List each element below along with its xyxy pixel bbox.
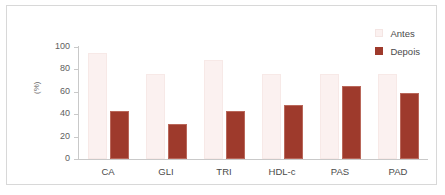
bar-group (253, 47, 311, 159)
bar-antes-ca (88, 53, 107, 159)
legend-item-depois[interactable]: Depois (375, 42, 420, 60)
bar-antes-tri (204, 60, 223, 159)
category-label-ca: CA (79, 166, 137, 177)
category-label-tri: TRI (195, 166, 253, 177)
y-axis-labels: 020406080100 (7, 6, 78, 186)
legend-swatch-icon (375, 47, 383, 55)
bar-antes-pas (320, 74, 339, 159)
y-axis-tick-label: 80 (60, 64, 70, 73)
bar-group (137, 47, 195, 159)
legend-item-antes[interactable]: Antes (375, 24, 420, 42)
bar-group (311, 47, 369, 159)
y-axis-tick-label: 20 (60, 132, 70, 141)
chart-frame: 020406080100 (%) CAGLITRIHDL-cPASPAD Ant… (6, 5, 437, 185)
bar-antes-gli (146, 74, 165, 159)
bar-depois-pas (342, 86, 361, 159)
bar-depois-ca (110, 111, 129, 159)
bar-group (195, 47, 253, 159)
y-axis-tick (74, 137, 78, 138)
bar-depois-tri (226, 111, 245, 159)
legend-label: Depois (390, 46, 420, 57)
bar-antes-hdl-c (262, 74, 281, 159)
bar-depois-pad (400, 93, 419, 159)
category-label-hdl-c: HDL-c (253, 166, 311, 177)
y-axis-tick (74, 47, 78, 48)
y-axis-tick-label: 100 (55, 42, 70, 51)
bar-antes-pad (378, 74, 397, 159)
category-label-pas: PAS (311, 166, 369, 177)
plot-area (79, 47, 427, 159)
y-axis-tick (74, 92, 78, 93)
bar-group (79, 47, 137, 159)
y-axis-tick (74, 114, 78, 115)
y-axis-tick-label: 40 (60, 109, 70, 118)
x-axis-line (78, 159, 428, 160)
y-axis-tick-label: 60 (60, 87, 70, 96)
y-axis-tick-label: 0 (65, 154, 70, 163)
chart-legend: AntesDepois (375, 24, 420, 60)
category-label-gli: GLI (137, 166, 195, 177)
legend-label: Antes (390, 28, 414, 39)
bar-group (369, 47, 427, 159)
legend-swatch-icon (375, 29, 383, 37)
y-axis-tick (74, 69, 78, 70)
bar-depois-hdl-c (284, 105, 303, 159)
y-axis-title: (%) (32, 82, 41, 94)
bar-depois-gli (168, 124, 187, 159)
category-label-pad: PAD (369, 166, 427, 177)
